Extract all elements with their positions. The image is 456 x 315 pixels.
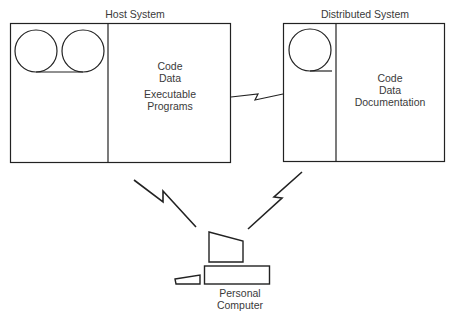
pc-label-line2: Computer (200, 299, 280, 311)
host-contents: Code Data Executable Programs (120, 60, 220, 112)
host-content-programs: Programs (120, 100, 220, 112)
pc-label-line1: Personal (200, 287, 280, 299)
pc-label: Personal Computer (200, 287, 280, 311)
distributed-content-code: Code (340, 72, 440, 84)
tape-drive-icon (289, 29, 332, 71)
host-content-executable: Executable (120, 88, 220, 100)
lightning-link-icon (231, 94, 283, 100)
host-content-code: Code (120, 60, 220, 72)
host-system-title: Host System (80, 8, 190, 20)
distributed-content-data: Data (340, 84, 440, 96)
distributed-content-documentation: Documentation (340, 96, 440, 108)
host-content-data: Data (120, 72, 220, 84)
lightning-link-icon (134, 180, 196, 227)
distributed-contents: Code Data Documentation (340, 72, 440, 108)
diagram-canvas (0, 0, 456, 315)
personal-computer-icon (175, 232, 270, 284)
lightning-link-icon (248, 172, 302, 229)
distributed-system-title: Distributed System (300, 8, 430, 20)
tape-drive-icon (15, 30, 104, 72)
